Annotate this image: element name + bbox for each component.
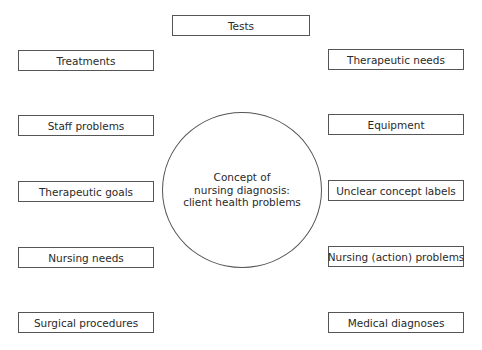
box-surgical-procedures: Surgical procedures: [18, 312, 154, 333]
box-nursing-needs: Nursing needs: [18, 247, 154, 268]
box-therapeutic-goals: Therapeutic goals: [18, 181, 154, 202]
box-tests: Tests: [172, 15, 310, 36]
box-therapeutic-needs: Therapeutic needs: [328, 49, 464, 70]
center-line-3: client health problems: [183, 196, 301, 209]
box-unclear-concept-labels: Unclear concept labels: [328, 180, 464, 201]
box-nursing-action-problems: Nursing (action) problems: [328, 246, 464, 267]
center-circle: Concept of nursing diagnosis: client hea…: [162, 112, 322, 268]
box-staff-problems: Staff problems: [18, 115, 154, 136]
center-line-1: Concept of: [214, 171, 271, 184]
box-treatments: Treatments: [18, 50, 154, 71]
box-medical-diagnoses: Medical diagnoses: [328, 312, 464, 333]
box-equipment: Equipment: [328, 114, 464, 135]
center-line-2: nursing diagnosis:: [194, 184, 290, 197]
